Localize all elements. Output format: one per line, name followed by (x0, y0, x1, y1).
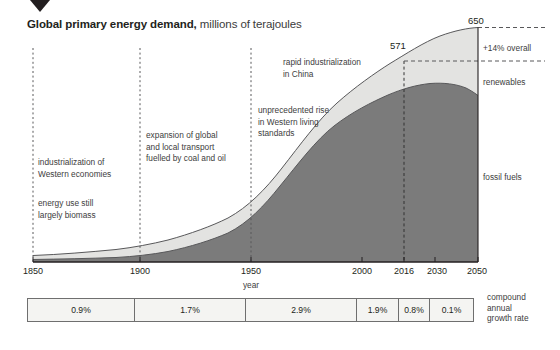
label-overall-growth: +14% overall (483, 43, 531, 55)
cagr-cell-2030-2050: 0.1% (430, 299, 473, 321)
annotation-industrialization-west: industrialization of Western economies (38, 157, 111, 180)
x-tick-label-1850: 1850 (23, 266, 43, 276)
annotation-china: rapid industrialization in China (283, 57, 361, 80)
x-tick-label-1950: 1950 (241, 266, 261, 276)
plot-area: industrialization of Western economies e… (0, 0, 560, 290)
x-tick-label-2050: 2050 (467, 266, 487, 276)
cagr-table: 0.9% 1.7% 2.9% 1.9% 0.8% 0.1% (27, 298, 474, 322)
annotation-western-living: unprecedented rise in Western living sta… (258, 105, 329, 140)
x-axis-caption: year (243, 280, 259, 290)
cagr-cell-2000-2016: 1.9% (357, 299, 399, 321)
label-renewables: renewables (483, 77, 525, 89)
cagr-table-caption: compound annual growth rate (487, 292, 529, 324)
cagr-cell-1850-1900: 0.9% (28, 299, 135, 321)
annotation-transport-expansion: expansion of global and local transport … (146, 130, 226, 165)
area-chart-svg (0, 0, 560, 290)
callout-value-2050: 650 (468, 15, 484, 26)
label-fossil-fuels: fossil fuels (483, 172, 522, 184)
x-tick-label-1900: 1900 (130, 266, 150, 276)
x-tick-label-2000: 2000 (352, 266, 372, 276)
x-tick-label-2030: 2030 (427, 266, 447, 276)
x-tick-label-2016: 2016 (394, 266, 414, 276)
cagr-cell-2016-2030: 0.8% (399, 299, 430, 321)
annotation-biomass: energy use still largely biomass (38, 198, 96, 221)
cagr-cell-1950-2000: 2.9% (246, 299, 357, 321)
callout-value-2016: 571 (390, 40, 406, 51)
cagr-cell-1900-1950: 1.7% (135, 299, 246, 321)
chart-figure: Global primary energy demand, millions o… (0, 0, 560, 350)
